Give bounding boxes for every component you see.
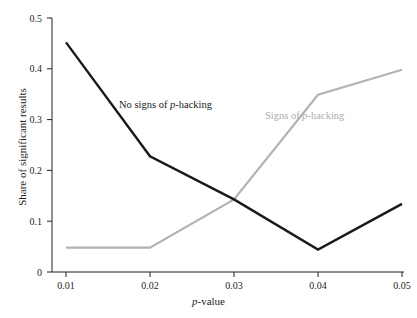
y-tick-label-3: 0.3 [30, 114, 43, 125]
annotation-signs-of-p-hacking: Signs of p-hacking [265, 110, 344, 121]
x-tick-label-1: 0.02 [141, 280, 159, 291]
x-axis-title: p-value [0, 295, 417, 307]
chart-container: 0 0.1 0.2 0.3 0.4 0.5 0.01 0.02 0.03 0.0… [0, 0, 417, 318]
x-axis-title-rest: -value [198, 295, 225, 307]
x-tick-label-0: 0.01 [57, 280, 75, 291]
annotation-hacking-suffix: -hacking [308, 110, 345, 121]
x-tick-label-2: 0.03 [225, 280, 243, 291]
y-axis-ticks: 0 0.1 0.2 0.3 0.4 0.5 [30, 13, 53, 278]
x-tick-label-3: 0.04 [309, 280, 327, 291]
y-tick-label-0: 0 [37, 267, 42, 278]
y-axis-title-text: Share of significant results [16, 88, 28, 206]
x-tick-label-4: 0.05 [393, 280, 411, 291]
series-line-no-signs-of-p-hacking [66, 42, 402, 249]
y-tick-label-4: 0.4 [30, 63, 43, 74]
y-tick-label-2: 0.2 [30, 165, 43, 176]
annotation-no-hacking-suffix: -hacking [175, 99, 212, 110]
series-line-signs-of-p-hacking [66, 70, 402, 248]
annotation-no-signs-of-p-hacking: No signs of p-hacking [119, 99, 212, 110]
annotation-hacking-prefix: Signs of [265, 110, 302, 121]
y-tick-label-5: 0.5 [30, 13, 43, 24]
y-tick-label-1: 0.1 [30, 216, 43, 227]
y-axis-title: Share of significant results [16, 62, 28, 232]
annotation-no-hacking-prefix: No signs of [119, 99, 170, 110]
x-axis-ticks: 0.01 0.02 0.03 0.04 0.05 [57, 272, 411, 291]
line-chart-plot: 0 0.1 0.2 0.3 0.4 0.5 0.01 0.02 0.03 0.0… [0, 0, 417, 318]
